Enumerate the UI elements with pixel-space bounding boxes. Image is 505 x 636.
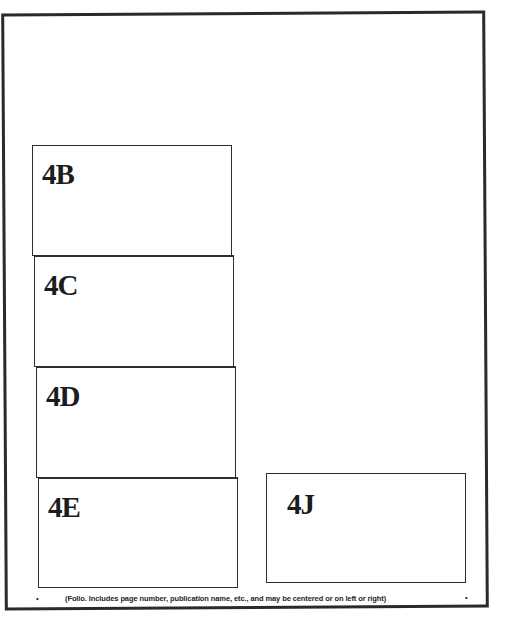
region-label-4b: 4B [42,160,74,189]
region-label-4c: 4C [44,271,77,300]
region-label-4e: 4E [48,493,80,522]
region-4c: 4C [34,255,234,367]
region-4j: 4J [266,473,466,583]
region-4b: 4B [32,145,232,256]
region-4d: 4D [36,366,236,478]
folio-caption: (Folio. Includes page number, publicatio… [65,594,386,603]
region-4e: 4E [38,477,238,588]
region-label-4d: 4D [46,382,79,411]
bullet-icon: • [36,594,39,603]
bullet-icon: • [465,593,468,602]
region-label-4j: 4J [287,490,314,519]
